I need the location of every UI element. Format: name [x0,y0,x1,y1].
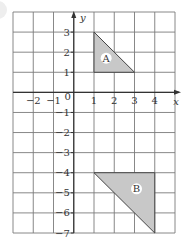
x-axis-label: x [173,96,179,107]
y-tick-label: −2 [55,127,70,138]
origin-label: 0 [65,91,71,102]
y-axis-label: y [79,12,86,23]
x-tick-label: 4 [152,95,158,106]
shape-label-a: A [102,53,111,64]
y-tick-label: −5 [55,187,70,198]
x-tick-label: 1 [91,95,97,106]
y-tick-label: 2 [63,47,69,58]
x-axis-arrow-icon [174,90,181,95]
y-tick-label: −6 [55,207,70,218]
y-tick-label: −1 [55,107,70,118]
y-tick-label: −4 [55,167,70,178]
x-tick-label: 2 [111,95,117,106]
shape-label-b: B [133,183,140,194]
decorative-corner-circle [0,1,7,19]
x-tick-label: −1 [46,95,61,106]
y-tick-label: 1 [63,67,69,78]
x-tick-label: −2 [26,95,41,106]
coordinate-grid-figure: AB −2−11234321−1−2−3−4−5−6−70xy [0,0,184,244]
triangle-b [94,173,155,233]
x-tick-label: 3 [131,95,137,106]
y-tick-label: −3 [55,147,70,158]
y-tick-label: −7 [55,228,70,239]
coordinate-grid: AB −2−11234321−1−2−3−4−5−6−70xy [0,0,184,244]
y-tick-label: 3 [63,27,69,38]
